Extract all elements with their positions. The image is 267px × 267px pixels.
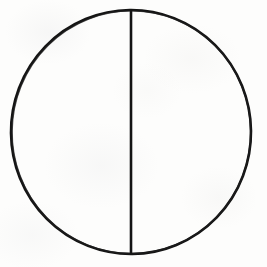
figure-canvas — [0, 0, 267, 267]
bisected-circle-drawing — [0, 0, 267, 267]
